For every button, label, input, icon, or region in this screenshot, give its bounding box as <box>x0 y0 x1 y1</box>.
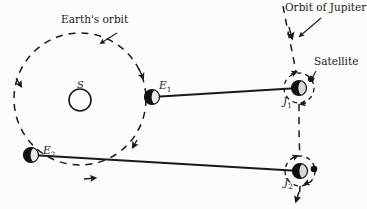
label-satellite: Satellite <box>314 56 358 67</box>
sun-circle <box>69 89 91 111</box>
diagram-canvas <box>0 0 367 209</box>
label-earth-2-text: E <box>43 144 51 156</box>
label-earth-1-text: E <box>159 79 167 91</box>
label-jupiter-1-subscript: 1 <box>287 101 292 110</box>
roemer-light-speed-diagram: Earth's orbit Orbit of Jupiter Satellite… <box>0 0 367 209</box>
label-earth-2: E2 <box>43 145 55 158</box>
label-earth-1: E1 <box>159 80 171 93</box>
satellite-orbit-arrow-2b <box>305 182 310 184</box>
earth-orbit-arrow-right <box>139 69 143 78</box>
label-jupiter-1: J1 <box>283 96 292 109</box>
label-earth-orbit: Earth's orbit <box>61 14 128 25</box>
label-orbit-of-jupiter: Orbit of Jupiter <box>285 2 366 13</box>
earth-orbit-leader <box>101 33 117 43</box>
label-earth-2-subscript: 2 <box>51 150 56 159</box>
earth-orbit-arrow-lower-right <box>133 140 137 147</box>
label-jupiter-2-subscript: 2 <box>288 182 293 191</box>
satellite-dot-2 <box>311 166 318 173</box>
satellite-orbit-arrow-1 <box>291 72 296 74</box>
jupiter-orbit-leader <box>300 18 321 36</box>
label-jupiter-2: J2 <box>284 177 293 190</box>
label-earth-1-subscript: 1 <box>167 85 172 94</box>
earth-orbit-arrow-bottom <box>84 178 95 179</box>
label-sun: S <box>77 80 84 90</box>
satellite-orbit-arrow-2 <box>292 156 297 158</box>
sight-line-e2-j2 <box>31 155 300 171</box>
sight-line-e1-j1 <box>152 88 299 97</box>
